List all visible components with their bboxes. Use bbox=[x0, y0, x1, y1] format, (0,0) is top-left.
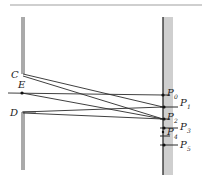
svg-text:5: 5 bbox=[187, 145, 191, 152]
svg-text:P: P bbox=[166, 126, 174, 137]
svg-text:P: P bbox=[179, 139, 187, 150]
diagram-canvas: C E D P 0 P 1 P 2 P 3 P 4 P 5 bbox=[0, 0, 202, 182]
svg-text:P: P bbox=[166, 87, 174, 98]
svg-text:2: 2 bbox=[173, 117, 178, 124]
svg-text:4: 4 bbox=[173, 133, 178, 140]
svg-text:P: P bbox=[179, 97, 187, 108]
barrier-lower bbox=[22, 112, 36, 170]
svg-text:P: P bbox=[179, 121, 187, 132]
point-e-dot bbox=[20, 91, 23, 94]
ray-d-p2 bbox=[23, 113, 163, 119]
ray-d-p1 bbox=[23, 107, 163, 112]
svg-text:P: P bbox=[166, 111, 174, 122]
ray-c-p1 bbox=[23, 74, 163, 107]
barrier-upper bbox=[22, 17, 24, 74]
svg-text:3: 3 bbox=[187, 127, 191, 134]
label-e: E bbox=[17, 79, 26, 90]
svg-text:0: 0 bbox=[174, 93, 178, 100]
svg-text:1: 1 bbox=[187, 103, 191, 110]
label-d: D bbox=[9, 107, 18, 118]
